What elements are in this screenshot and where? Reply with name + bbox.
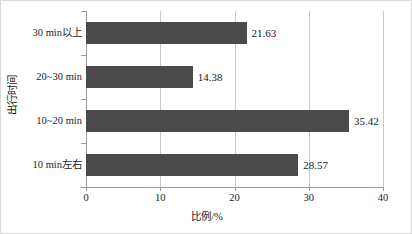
x-tick-40 xyxy=(383,187,384,191)
bar-value-label: 35.42 xyxy=(349,110,379,132)
x-tick-label-0: 0 xyxy=(71,192,101,203)
x-tick-30 xyxy=(309,187,310,191)
category-label: 10 min左右 xyxy=(1,158,82,172)
bar-row: 35.42 xyxy=(86,99,383,143)
grid-line-40 xyxy=(383,11,384,187)
x-tick-label-20: 20 xyxy=(220,192,250,203)
x-axis-title: 比例/% xyxy=(1,208,412,223)
bar xyxy=(86,22,247,44)
x-tick-label-30: 30 xyxy=(294,192,324,203)
x-tick-label-10: 10 xyxy=(145,192,175,203)
bar xyxy=(86,110,349,132)
bar-value-label: 28.57 xyxy=(298,154,328,176)
bar xyxy=(86,154,298,176)
x-tick-10 xyxy=(160,187,161,191)
bar-row: 21.63 xyxy=(86,11,383,55)
bar-chart-figure: 010203040 28.5735.4214.3821.63 10 min左右1… xyxy=(0,0,412,234)
x-tick-20 xyxy=(235,187,236,191)
category-label: 30 min以上 xyxy=(1,26,82,40)
x-tick-0 xyxy=(86,187,87,191)
bar xyxy=(86,66,193,88)
bar-value-label: 21.63 xyxy=(247,22,277,44)
bar-row: 14.38 xyxy=(86,55,383,99)
x-tick-label-40: 40 xyxy=(368,192,398,203)
y-axis-title: 出行时间 xyxy=(4,57,19,133)
bar-value-label: 14.38 xyxy=(193,66,223,88)
bar-row: 28.57 xyxy=(86,143,383,187)
